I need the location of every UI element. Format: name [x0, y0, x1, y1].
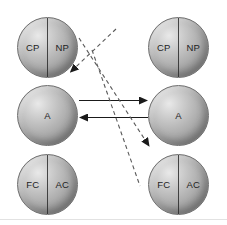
- sphere-label-np: NP: [48, 43, 78, 53]
- dashed-line-lower-tail: [92, 50, 140, 186]
- sphere-label-group: CP NP: [149, 18, 208, 77]
- sphere-label-ac: AC: [48, 180, 78, 190]
- sphere-right-mid: A: [148, 85, 209, 146]
- sphere-label-group: FC AC: [149, 155, 208, 214]
- sphere-right-top: CP NP: [148, 17, 209, 78]
- sphere-left-top: CP NP: [17, 17, 78, 78]
- sphere-label-cp: CP: [18, 43, 48, 53]
- right-column: CP NP A FC AC: [148, 0, 210, 225]
- sphere-label-group: FC AC: [18, 155, 77, 214]
- sphere-label-a: A: [18, 111, 77, 121]
- sphere-label-ac: AC: [179, 180, 209, 190]
- sphere-label-np: NP: [179, 43, 209, 53]
- sphere-left-bottom: FC AC: [17, 154, 78, 215]
- sphere-label-a: A: [149, 111, 208, 121]
- sphere-label-fc: FC: [149, 180, 179, 190]
- sphere-label-cp: CP: [149, 43, 179, 53]
- sphere-label-group: A: [18, 86, 77, 145]
- left-column: CP NP A FC AC: [17, 0, 79, 225]
- sphere-label-group: A: [149, 86, 208, 145]
- sphere-left-mid: A: [17, 85, 78, 146]
- bottom-divider-line: [0, 219, 227, 220]
- sphere-right-bottom: FC AC: [148, 154, 209, 215]
- sphere-label-group: CP NP: [18, 18, 77, 77]
- diagram-canvas: CP NP A FC AC CP NP: [0, 0, 227, 225]
- arrow-dashed-to-right-fc-ac: [79, 38, 149, 146]
- sphere-label-fc: FC: [18, 180, 48, 190]
